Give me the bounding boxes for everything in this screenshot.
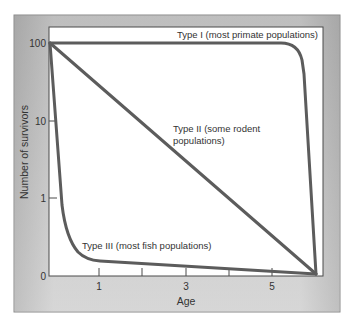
chart-svg: 100 10 1 0 1 3 5 Age Number of survivors… [0, 0, 348, 322]
y-tick-label-100: 100 [29, 38, 46, 49]
y-axis-title: Number of survivors [18, 105, 30, 199]
label-type-3: Type III (most fish populations) [82, 240, 211, 251]
plot-area [49, 27, 323, 276]
y-tick-label-10: 10 [35, 116, 47, 127]
y-tick-label-1: 1 [40, 193, 46, 204]
x-axis-title: Age [177, 295, 196, 307]
x-tick-label-1: 1 [96, 281, 102, 292]
survivorship-chart: 100 10 1 0 1 3 5 Age Number of survivors… [0, 0, 348, 322]
label-type-2-line2: populations) [173, 135, 225, 146]
label-type-1: Type I (most primate populations) [177, 29, 318, 40]
x-tick-label-5: 5 [269, 281, 275, 292]
y-tick-label-0: 0 [40, 271, 46, 282]
x-tick-label-3: 3 [183, 281, 189, 292]
label-type-2-line1: Type II (some rodent [173, 123, 260, 134]
